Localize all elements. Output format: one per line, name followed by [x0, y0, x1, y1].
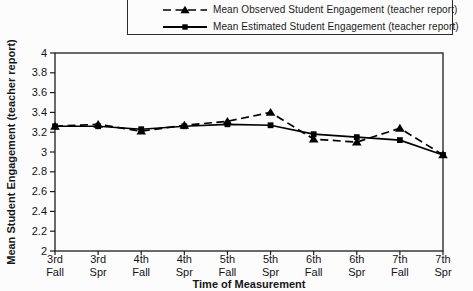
x-axis-tick-label: 5thSpr	[262, 253, 279, 278]
y-axis-title: Mean Student Engagement (teacher report)	[5, 39, 17, 265]
x-axis-tick-label: 7thFall	[391, 253, 409, 278]
estimated-data-point-marker	[354, 134, 360, 140]
y-axis-tick-label: 3	[41, 146, 47, 158]
x-axis-tick-label: 6thFall	[305, 253, 323, 278]
plot-border	[55, 53, 443, 251]
estimated-data-point-marker	[181, 123, 187, 129]
plot-area: 43.83.63.43.232.82.62.42.223rdFall3rdSpr…	[0, 0, 473, 291]
estimated-data-point-marker	[440, 152, 446, 158]
y-axis-tick-label: 2.6	[32, 185, 47, 197]
y-axis-tick-label: 2.2	[32, 225, 47, 237]
x-axis-tick-label: 6thSpr	[348, 253, 365, 278]
y-axis-tick-label: 3.8	[32, 66, 47, 78]
x-axis-tick-label: 3rdSpr	[90, 253, 107, 278]
estimated-series-line	[55, 124, 443, 155]
estimated-data-point-marker	[138, 126, 144, 132]
y-axis-tick-label: 3.2	[32, 126, 47, 138]
estimated-data-point-marker	[52, 123, 58, 129]
estimated-data-point-marker	[397, 137, 403, 143]
engagement-line-chart-figure: Mean Observed Student Engagement (teache…	[0, 0, 473, 291]
observed-data-point-marker	[395, 124, 405, 132]
estimated-data-point-marker	[268, 122, 274, 128]
y-axis-tick-label: 2.8	[32, 165, 47, 177]
y-axis-tick-label: 2.4	[32, 205, 47, 217]
x-axis-title: Time of Measurement	[55, 278, 443, 290]
x-axis-tick-label: 5thFall	[219, 253, 237, 278]
y-axis-tick-label: 4	[41, 47, 47, 59]
y-axis-tick-label: 3.6	[32, 86, 47, 98]
x-axis-tick-label: 4thFall	[132, 253, 150, 278]
estimated-data-point-marker	[225, 121, 231, 127]
x-axis-tick-label: 3rdFall	[46, 253, 64, 278]
x-axis-tick-label: 7thSpr	[434, 253, 451, 278]
observed-series-line	[55, 112, 443, 155]
x-axis-tick-label: 4thSpr	[176, 253, 193, 278]
observed-data-point-marker	[266, 108, 276, 116]
estimated-data-point-marker	[95, 123, 101, 129]
estimated-data-point-marker	[311, 131, 317, 137]
y-axis-tick-label: 3.4	[32, 106, 47, 118]
